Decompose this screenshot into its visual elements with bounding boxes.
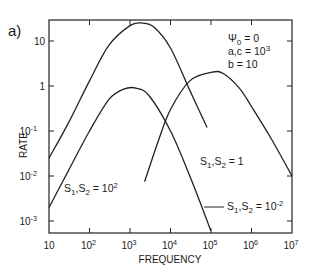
rate-vs-frequency-chart: a) 1010210310410510610710110-110-210-3 S…	[0, 0, 314, 276]
curve-0	[49, 23, 207, 158]
panel-label: a)	[8, 22, 21, 39]
curve-label: S1,S2 = 10-2	[227, 199, 283, 215]
x-tick-label: 103	[121, 238, 136, 251]
svg-text:b = 10: b = 10	[228, 58, 258, 70]
x-tick-label: 106	[243, 238, 258, 251]
parameter-annotation: Ψ0 = 0 a,c = 103 b = 10	[228, 32, 271, 70]
curve-label: S1,S2 = 102	[64, 181, 118, 197]
y-tick-label: 10-2	[19, 169, 37, 182]
x-tick-label: 102	[81, 238, 96, 251]
curve-1	[49, 87, 211, 231]
x-tick-label: 107	[283, 238, 298, 251]
y-axis-label: RATE	[18, 132, 29, 158]
x-axis-label: FREQUENCY	[139, 254, 202, 265]
x-tick-label: 105	[202, 238, 217, 251]
y-tick-label: 1	[39, 81, 45, 92]
curve-labels: S1,S2 = 1S1,S2 = 102S1,S2 = 10-2	[64, 155, 283, 215]
x-tick-label: 10	[43, 240, 55, 251]
y-tick-label: 10-3	[19, 214, 37, 227]
x-tick-label: 104	[162, 238, 177, 251]
y-tick-label: 10	[34, 36, 46, 47]
svg-text:a,c = 103: a,c = 103	[228, 44, 271, 57]
curve-label: S1,S2 = 1	[200, 155, 244, 170]
